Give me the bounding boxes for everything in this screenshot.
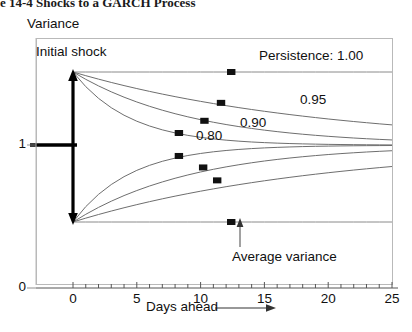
curves-group xyxy=(73,72,392,222)
x-tick-label-25: 25 xyxy=(377,291,407,306)
x-axis xyxy=(36,282,398,288)
initial-shock-label: Initial shock xyxy=(36,44,107,59)
initial-shock-arrow xyxy=(68,69,78,225)
y-tick-label-0: 0 xyxy=(8,279,26,294)
y-tick-label-1: 1 xyxy=(8,136,26,151)
x-tick-label-20: 20 xyxy=(313,291,343,306)
marker-persistence-0.95 xyxy=(217,100,225,106)
x-tick-label-15: 15 xyxy=(249,291,279,306)
curve-label-p090: 0.90 xyxy=(240,115,266,130)
average-variance-label: Average variance xyxy=(232,249,337,264)
y-axis-spine xyxy=(27,38,36,288)
curve-label-p080: 0.80 xyxy=(196,128,222,143)
persistence-label: Persistence: 1.00 xyxy=(259,48,363,63)
curve-persistence-0.9 xyxy=(73,72,392,140)
curve-label-p095: 0.95 xyxy=(300,92,326,107)
curve-persistence-0.95 xyxy=(73,167,392,222)
curve-persistence-0.9 xyxy=(73,151,392,222)
marker-persistence-1 xyxy=(227,219,235,225)
x-axis-title: Days ahead xyxy=(146,299,218,314)
curve-persistence-0.8 xyxy=(73,72,392,145)
marker-persistence-0.95 xyxy=(213,177,221,183)
curve-persistence-0.95 xyxy=(73,72,392,125)
curve-persistence-0.8 xyxy=(73,146,392,222)
marker-persistence-0.8 xyxy=(175,153,183,159)
marker-persistence-1 xyxy=(227,69,235,75)
marker-persistence-0.9 xyxy=(200,118,208,124)
marker-persistence-0.8 xyxy=(175,130,183,136)
data-point-markers xyxy=(175,69,236,225)
x-tick-label-0: 0 xyxy=(58,291,88,306)
marker-persistence-0.9 xyxy=(199,164,207,170)
